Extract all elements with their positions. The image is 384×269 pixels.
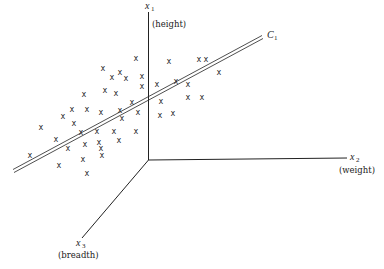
data-point: x — [140, 82, 145, 91]
data-point: x — [171, 109, 176, 118]
data-point: x — [120, 114, 125, 123]
c1-label: C 1 — [267, 29, 278, 42]
data-point: x — [186, 80, 191, 89]
svg-text:(breadth): (breadth) — [58, 250, 99, 260]
data-point: x — [85, 169, 90, 178]
data-point: x — [54, 135, 59, 144]
data-point: x — [99, 108, 104, 117]
data-point: x — [159, 97, 164, 106]
svg-text:3: 3 — [82, 242, 86, 250]
svg-text:C: C — [267, 29, 274, 40]
data-point: x — [70, 105, 75, 114]
axis-x3 — [82, 160, 149, 238]
data-point: x — [66, 144, 71, 153]
data-point: x — [204, 55, 209, 64]
svg-text:(height): (height) — [152, 19, 186, 29]
data-point: x — [136, 108, 141, 117]
data-point: x — [95, 127, 100, 136]
data-point: x — [174, 77, 179, 86]
svg-text:1: 1 — [151, 5, 155, 13]
data-point: x — [99, 144, 104, 153]
svg-text:(weight): (weight) — [339, 165, 375, 175]
data-point: x — [197, 55, 202, 64]
data-point: x — [140, 72, 145, 81]
data-point: x — [186, 93, 191, 102]
data-point: x — [81, 155, 86, 164]
axis-x2 — [149, 158, 348, 160]
data-point: x — [57, 161, 62, 170]
data-point: x — [217, 68, 222, 77]
x1-label: x 1 (height) — [144, 0, 186, 29]
data-point: x — [39, 123, 44, 132]
data-point: x — [85, 105, 90, 114]
data-point: x — [83, 140, 88, 149]
data-point: x — [117, 136, 122, 145]
data-point: x — [28, 151, 33, 160]
data-point: x — [79, 128, 84, 137]
data-point: x — [110, 73, 115, 82]
svg-text:1: 1 — [274, 34, 278, 42]
data-point: x — [124, 74, 129, 83]
data-point: x — [112, 127, 117, 136]
data-point: x — [155, 80, 160, 89]
data-point: x — [103, 86, 108, 95]
data-point: x — [114, 89, 119, 98]
svg-text:x: x — [144, 0, 150, 11]
pca-3d-diagram: xxxxxxxxxxxxxxxxxxxxxxxxxxxxxxxxxxxxxxxx… — [0, 0, 384, 269]
svg-text:x: x — [349, 151, 355, 162]
x2-label: x 2 (weight) — [339, 151, 375, 175]
svg-text:2: 2 — [356, 156, 360, 164]
data-point: x — [134, 54, 139, 63]
data-point: x — [167, 57, 172, 66]
data-point: x — [134, 127, 139, 136]
data-point: x — [158, 111, 163, 120]
data-point: x — [200, 93, 205, 102]
svg-text:x: x — [75, 237, 81, 248]
data-point: x — [61, 112, 66, 121]
data-point: x — [72, 119, 77, 128]
data-point: x — [101, 64, 106, 73]
data-point: x — [82, 90, 87, 99]
data-point: x — [118, 68, 123, 77]
x3-label: x 3 (breadth) — [58, 237, 99, 260]
data-point: x — [130, 98, 135, 107]
